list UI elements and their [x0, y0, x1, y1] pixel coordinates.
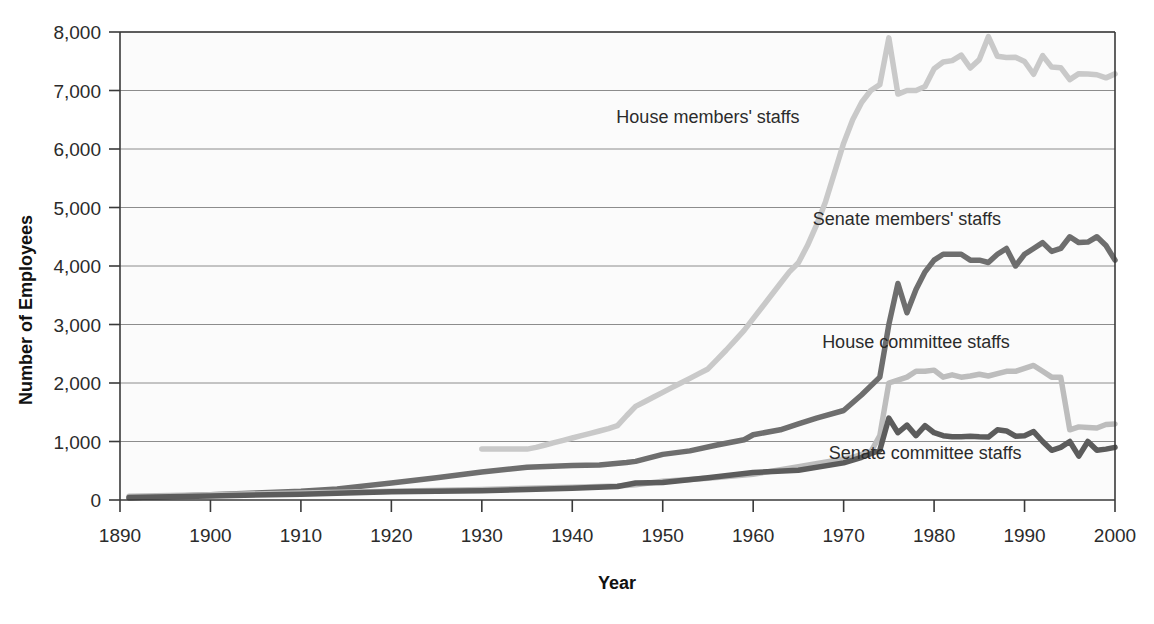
y-tick-label-3000: 3,000	[53, 315, 101, 336]
y-tick-label-5000: 5,000	[53, 198, 101, 219]
y-tick-label-2000: 2,000	[53, 373, 101, 394]
y-tick-label-4000: 4,000	[53, 256, 101, 277]
x-tick-label-1970: 1970	[822, 525, 864, 546]
x-axis-title: Year	[598, 573, 636, 593]
series-label-3: Senate committee staffs	[829, 443, 1022, 463]
x-tick-label-1900: 1900	[189, 525, 231, 546]
x-tick-label-1910: 1910	[280, 525, 322, 546]
series-label-0: House members' staffs	[616, 107, 799, 127]
x-tick-label-1890: 1890	[99, 525, 141, 546]
y-tick-label-6000: 6,000	[53, 139, 101, 160]
series-label-1: Senate members' staffs	[813, 209, 1001, 229]
x-tick-label-1960: 1960	[732, 525, 774, 546]
x-tick-label-1940: 1940	[551, 525, 593, 546]
y-tick-label-0: 0	[90, 490, 101, 511]
series-label-2: House committee staffs	[822, 332, 1010, 352]
x-tick-label-2000: 2000	[1094, 525, 1136, 546]
y-tick-label-8000: 8,000	[53, 22, 101, 43]
y-tick-label-1000: 1,000	[53, 432, 101, 453]
y-axis-title: Number of Employees	[16, 215, 36, 405]
y-tick-label-7000: 7,000	[53, 81, 101, 102]
line-chart: 1890190019101920193019401950196019701980…	[0, 0, 1154, 624]
chart-container: 1890190019101920193019401950196019701980…	[0, 0, 1154, 624]
x-tick-label-1950: 1950	[642, 525, 684, 546]
x-tick-label-1990: 1990	[1003, 525, 1045, 546]
y-axis-tick-labels: 01,0002,0003,0004,0005,0006,0007,0008,00…	[53, 22, 101, 511]
x-tick-label-1920: 1920	[370, 525, 412, 546]
x-tick-label-1980: 1980	[913, 525, 955, 546]
x-tick-label-1930: 1930	[461, 525, 503, 546]
